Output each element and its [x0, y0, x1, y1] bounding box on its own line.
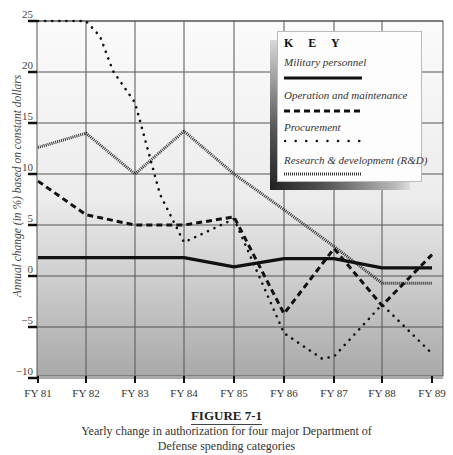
- x-tick-label: FY 89: [418, 387, 446, 399]
- legend-label-military: Military personnel: [284, 56, 366, 68]
- y-tick-label: 0: [28, 263, 34, 275]
- figure-caption-line2: Defense spending categories: [0, 439, 453, 454]
- legend-label-procurement: Procurement: [284, 121, 341, 133]
- y-tick-label: 10: [22, 161, 34, 173]
- y-tick-label: 20: [22, 59, 34, 71]
- legend-swatch-solid: [284, 75, 362, 81]
- y-tick-label: 25: [22, 8, 34, 20]
- x-tick-label: FY 86: [270, 387, 298, 399]
- legend-title: K E Y: [284, 36, 346, 51]
- legend-shadow: [270, 40, 277, 190]
- legend-swatch-fine-dotted: [284, 171, 362, 177]
- figure-label-text: FIGURE 7-1: [191, 408, 262, 425]
- x-axis-ticks: FY 81FY 82FY 83FY 84FY 85FY 86FY 87FY 88…: [24, 376, 446, 399]
- legend-label-om: Operation and maintenance: [284, 89, 407, 101]
- y-tick-label: 5: [28, 212, 34, 224]
- legend-shadow: [270, 182, 410, 190]
- legend-swatch-dotted: [284, 138, 362, 144]
- y-tick-label: −10: [16, 365, 34, 377]
- x-tick-label: FY 87: [320, 387, 348, 399]
- figure-label: FIGURE 7-1: [0, 406, 453, 424]
- legend-label-rnd: Research & development (R&D): [284, 154, 427, 166]
- x-tick-label: FY 84: [170, 387, 198, 399]
- y-tick-label: −5: [21, 314, 33, 326]
- legend: K E Y Military personnel Operation and m…: [277, 31, 422, 182]
- y-axis-label: Annual change (in %) based on constant d…: [11, 51, 23, 321]
- x-tick-label: FY 82: [72, 387, 99, 399]
- x-tick-label: FY 83: [121, 387, 149, 399]
- figure-caption-line1: Yearly change in authorization for four …: [0, 424, 453, 439]
- x-tick-label: FY 85: [220, 387, 248, 399]
- x-tick-label: FY 81: [24, 387, 51, 399]
- x-tick-label: FY 88: [368, 387, 396, 399]
- y-tick-label: 15: [22, 110, 34, 122]
- legend-swatch-dashed: [284, 108, 362, 114]
